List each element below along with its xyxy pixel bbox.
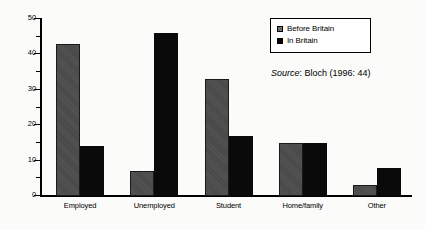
bar-group <box>56 18 104 196</box>
bar-in-britain <box>303 143 327 196</box>
source-citation: : Bloch (1996: 44) <box>300 68 371 78</box>
legend-entry-before-britain: Before Britain <box>277 23 364 35</box>
legend-label: In Britain <box>287 36 318 46</box>
source-note: Source: Bloch (1996: 44) <box>271 67 371 79</box>
y-axis-tick-label: 10 <box>12 156 36 164</box>
y-axis-tick-label: 0 <box>12 191 36 199</box>
bar-before-britain <box>353 185 377 196</box>
bar-group <box>130 18 178 196</box>
bar-group <box>205 18 253 196</box>
bar-chart: 01020304050 EmployedUnemployedStudentHom… <box>0 0 425 229</box>
bar-in-britain <box>80 146 104 196</box>
bar-before-britain <box>279 143 303 196</box>
bar-in-britain <box>377 168 401 196</box>
bar-in-britain <box>154 33 178 196</box>
chart-legend: Before Britain In Britain <box>270 18 371 53</box>
y-axis-tick-label: 50 <box>12 14 36 22</box>
y-axis-tick-label: 40 <box>12 49 36 57</box>
hatched-gray-swatch-icon <box>277 26 283 32</box>
y-axis-tick-label: 30 <box>12 85 36 93</box>
legend-entry-in-britain: In Britain <box>277 35 364 47</box>
legend-label: Before Britain <box>287 24 334 34</box>
bar-before-britain <box>56 44 80 196</box>
bar-before-britain <box>205 79 229 196</box>
source-label: Source <box>271 68 300 78</box>
bar-in-britain <box>229 136 253 196</box>
y-axis-tick-label: 20 <box>12 120 36 128</box>
x-axis-category-label: Other <box>332 201 422 210</box>
bar-before-britain <box>130 171 154 196</box>
solid-black-swatch-icon <box>277 38 283 44</box>
